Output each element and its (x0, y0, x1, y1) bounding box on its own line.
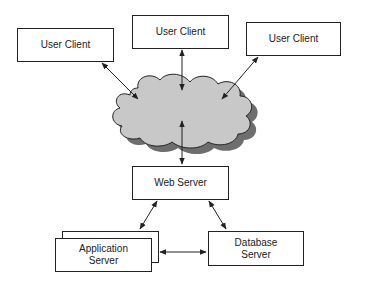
user-client-left: User Client (17, 28, 114, 62)
app-server-label-line2: Server (89, 255, 118, 267)
database-server: Database Server (208, 231, 304, 266)
user-client-center-label: User Client (156, 26, 205, 38)
app-server: Application Server (55, 238, 152, 272)
edge-web-app (140, 201, 157, 229)
web-server-label: Web Server (154, 177, 207, 189)
db-server-label-line1: Database (235, 237, 278, 249)
user-client-left-label: User Client (41, 39, 90, 51)
user-client-center: User Client (132, 15, 229, 49)
user-client-right-label: User Client (269, 33, 318, 45)
user-client-right: User Client (246, 22, 341, 56)
web-server: Web Server (132, 166, 229, 200)
db-server-label-line2: Server (241, 249, 270, 261)
edge-client-left-cloud (102, 63, 138, 99)
app-server-label-line1: Application (79, 243, 128, 255)
edge-web-db (209, 201, 226, 229)
